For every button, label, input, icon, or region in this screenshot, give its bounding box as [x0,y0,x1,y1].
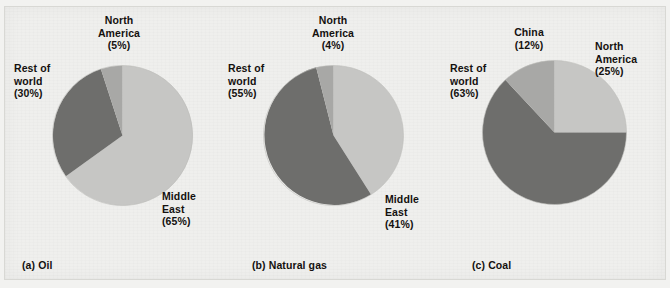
label-value: (4%) [322,39,345,51]
label-rest-of-world-oil: Rest ofworld(30%) [14,62,84,100]
label-line-2: world [14,75,43,87]
label-line-1: Rest of [228,62,264,74]
label-line-2: East [162,203,185,215]
label-line-2: world [228,75,257,87]
label-line-1: North [105,14,134,26]
label-value: (25%) [595,65,624,77]
label-line-1: North [595,40,624,52]
label-value: (30%) [14,87,43,99]
label-value: (12%) [515,39,544,51]
label-line-2: America [98,27,140,39]
label-value: (63%) [450,87,479,99]
label-line-1: Middle [162,190,196,202]
label-line-1: China [514,26,544,38]
label-value: (65%) [162,215,191,227]
label-middle-east-oil: MiddleEast(65%) [162,190,232,228]
label-north-america-coal: NorthAmerica(25%) [595,40,670,78]
pie-panel-coal: China(12%) NorthAmerica(25%) Rest ofworl… [450,0,670,288]
label-value: (55%) [228,87,257,99]
label-middle-east-natural-gas: MiddleEast(41%) [385,193,455,231]
label-rest-of-world-coal: Rest ofworld(63%) [450,62,520,100]
caption-natural-gas: (b) Natural gas [252,259,327,271]
label-line-1: Rest of [450,62,486,74]
label-north-america-natural-gas: NorthAmerica(4%) [288,14,378,52]
label-line-2: world [450,75,479,87]
label-line-2: East [385,206,408,218]
label-line-2: America [312,27,354,39]
caption-coal: (c) Coal [472,259,511,271]
label-line-2: America [595,53,637,65]
pie-panel-natural-gas: NorthAmerica(4%) Rest ofworld(55%) Middl… [226,0,450,288]
pie-panel-oil: NorthAmerica(5%) Rest ofworld(30%) Middl… [0,0,226,288]
label-line-1: Middle [385,193,419,205]
label-line-1: Rest of [14,62,50,74]
figure-root: NorthAmerica(5%) Rest ofworld(30%) Middl… [0,0,670,288]
label-value: (41%) [385,218,414,230]
label-rest-of-world-natural-gas: Rest ofworld(55%) [228,62,298,100]
label-north-america-oil: NorthAmerica(5%) [74,14,164,52]
label-china-coal: China(12%) [494,26,564,51]
label-value: (5%) [108,39,131,51]
caption-oil: (a) Oil [22,259,52,271]
label-line-1: North [319,14,348,26]
